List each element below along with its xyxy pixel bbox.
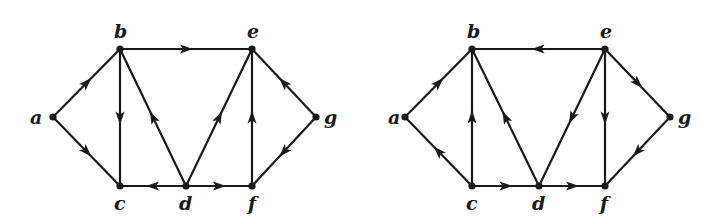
vertex-dot [49,113,56,120]
vertex-dot [401,113,408,120]
node-label: c [466,192,478,214]
graph-left: abegcdf [30,20,337,214]
vertex-dot [116,182,123,189]
node-label: b [114,20,127,42]
vertex-dot [535,182,542,189]
node-label: g [324,106,337,128]
arrowhead-icon [565,110,579,126]
edge-e-d [539,49,605,186]
edge-b-c [116,49,125,186]
node-g: g [312,106,337,128]
node-b: b [114,20,127,53]
vertex-dot [248,182,255,189]
vertex-dot [601,45,608,52]
edge-a-b [53,49,120,117]
arrowhead-icon [498,109,512,125]
vertex-dot [601,182,608,189]
edge-f-e [248,49,257,186]
node-c: c [466,182,478,214]
edge-c-d [472,182,539,191]
edge-d-f [539,182,605,191]
edge-d-b [472,49,539,186]
vertex-dot [468,182,475,189]
edge-d-b [120,49,186,186]
node-label: e [600,20,612,42]
edge-g-f [605,117,670,186]
digraph-figure: abegcdf abegcdf [0,0,722,224]
node-f: f [246,182,259,214]
vertex-dot [312,113,319,120]
node-label: f [246,192,259,214]
node-label: b [467,20,480,42]
edge-a-c [53,117,120,186]
node-e: e [247,20,259,53]
edge-c-a [405,117,472,186]
vertex-dot [248,45,255,52]
graph-right: abegcdf [388,20,691,214]
node-label: d [179,192,192,214]
node-label: f [598,192,611,214]
node-e: e [600,20,612,53]
node-label: c [114,192,126,214]
node-g: g [666,106,691,128]
edge-e-b [472,45,605,54]
edge-g-f [252,117,316,186]
edge-c-b [468,49,477,186]
node-a: a [30,106,57,128]
edge-a-b [405,49,472,117]
edge-b-e [120,45,252,54]
edge-g-e [252,49,316,117]
edge-d-f [186,182,252,191]
arrowhead-icon [146,109,160,125]
vertex-dot [666,113,673,120]
node-a: a [388,106,409,128]
vertex-dot [468,45,475,52]
node-label: a [388,106,400,128]
node-label: d [532,192,545,214]
edge-e-g [605,49,670,117]
vertex-dot [116,45,123,52]
node-d: d [532,182,545,214]
node-b: b [467,20,480,53]
vertex-dot [182,182,189,189]
arrowhead-icon [212,109,226,125]
edge-d-e [186,49,252,186]
edge-d-c [120,182,186,191]
node-f: f [598,182,611,214]
node-c: c [114,182,126,214]
node-label: g [678,106,691,128]
node-d: d [179,182,192,214]
edge-e-f [601,49,610,186]
node-label: a [30,106,42,128]
node-label: e [247,20,259,42]
